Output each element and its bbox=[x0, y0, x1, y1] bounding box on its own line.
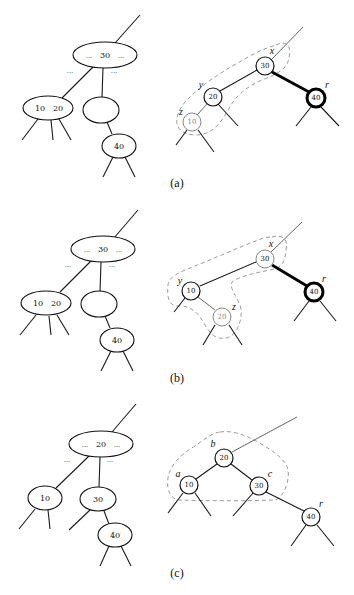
caption-b: (b) bbox=[170, 371, 184, 385]
ellipsis: ... bbox=[65, 261, 72, 269]
ellipsis: ... bbox=[82, 441, 89, 449]
caption-c: (c) bbox=[170, 566, 183, 580]
rb-key: 40 bbox=[307, 513, 316, 521]
panel-c-rbtree: 20 b 10 a 30 c 40 r bbox=[168, 417, 334, 546]
btree-node-middle-empty bbox=[83, 97, 119, 123]
panel-c: ... 20 ... ... ... 10 30 40 20 b bbox=[19, 404, 334, 580]
node-label: r bbox=[322, 273, 326, 284]
node-label: x bbox=[268, 238, 274, 249]
caption-a: (a) bbox=[170, 176, 183, 190]
ellipsis: ... bbox=[67, 67, 74, 75]
node-label: r bbox=[319, 498, 323, 509]
rb-key: 30 bbox=[255, 482, 264, 490]
ellipsis: ... bbox=[107, 456, 114, 464]
node-label: z bbox=[231, 301, 236, 312]
node-label: y bbox=[198, 79, 204, 90]
btree-key: 10 bbox=[33, 299, 43, 308]
btree-key: 10 bbox=[35, 104, 45, 113]
panel-c-btree: ... 20 ... ... ... 10 30 40 bbox=[19, 404, 136, 566]
btree-key: 30 bbox=[98, 245, 108, 254]
rb-key: 30 bbox=[261, 62, 270, 70]
btree-key: 20 bbox=[53, 104, 63, 113]
btree-key: 40 bbox=[110, 531, 120, 540]
rb-key: 40 bbox=[312, 94, 321, 102]
figure-canvas: ... 30 ... ... ... 10 20 40 30 x bbox=[0, 0, 354, 595]
panel-b-rbtree: 30 x 10 y 20 z 40 r bbox=[168, 222, 336, 345]
ellipsis: ... bbox=[118, 52, 125, 60]
ellipsis: ... bbox=[109, 261, 116, 269]
btree-key: 40 bbox=[114, 142, 124, 151]
btree-node-middle-empty bbox=[81, 291, 117, 317]
ellipsis: ... bbox=[64, 456, 71, 464]
rb-key: 10 bbox=[185, 481, 194, 489]
btree-key: 20 bbox=[96, 440, 106, 449]
panel-b: ... 30 ... ... ... 10 20 40 30 x bbox=[20, 210, 336, 385]
node-label: x bbox=[269, 45, 275, 56]
panel-b-btree: ... 30 ... ... ... 10 20 40 bbox=[20, 210, 138, 371]
btree-key: 20 bbox=[51, 299, 61, 308]
node-label: b bbox=[211, 438, 216, 449]
rb-key: 30 bbox=[261, 255, 270, 263]
btree-key: 40 bbox=[112, 336, 122, 345]
node-label: a bbox=[176, 468, 181, 479]
node-label: r bbox=[325, 79, 329, 90]
btree-key: 30 bbox=[100, 51, 110, 60]
ellipsis: ... bbox=[84, 246, 91, 254]
node-label: c bbox=[268, 468, 273, 479]
ellipsis: ... bbox=[116, 246, 123, 254]
rb-key: 20 bbox=[218, 313, 227, 321]
rb-key: 20 bbox=[220, 454, 229, 462]
btree-key: 30 bbox=[93, 495, 103, 504]
ellipsis: ... bbox=[114, 441, 121, 449]
btree-node-left bbox=[21, 291, 71, 315]
node-label: y bbox=[177, 275, 183, 286]
panel-a-btree: ... 30 ... ... ... 10 20 40 bbox=[22, 15, 140, 177]
rb-key: 20 bbox=[209, 93, 218, 101]
rb-key: 40 bbox=[310, 288, 319, 296]
ellipsis: ... bbox=[111, 67, 118, 75]
rb-key: 10 bbox=[187, 287, 196, 295]
rb-key: 10 bbox=[188, 118, 197, 126]
btree-node-left bbox=[23, 96, 73, 120]
panel-a: ... 30 ... ... ... 10 20 40 30 x bbox=[22, 15, 339, 190]
ellipsis: ... bbox=[86, 52, 93, 60]
node-label: z bbox=[178, 106, 183, 117]
btree-key: 10 bbox=[40, 494, 50, 503]
panel-a-rbtree: 30 x 20 y 10 z 40 r bbox=[176, 27, 339, 152]
